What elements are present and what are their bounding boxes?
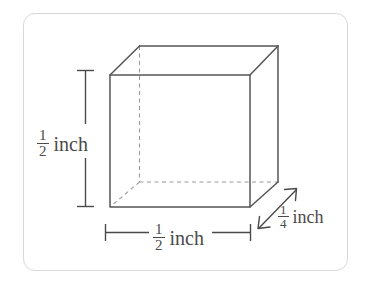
width-label: 1 2 inch [153,222,204,254]
width-numerator: 1 [153,222,165,238]
hidden-edges [110,46,278,207]
depth-unit: inch [293,208,324,226]
width-denominator: 2 [153,238,165,253]
solid-edges [110,46,278,207]
height-denominator: 2 [37,144,49,159]
edge-bottom-right-diagonal [250,182,278,207]
height-fraction: 1 2 [37,128,49,160]
height-label: 1 2 inch [37,128,88,160]
depth-fraction: 1 4 [278,203,289,231]
edge-top-left-diagonal [110,46,140,75]
height-unit: inch [54,134,88,154]
hidden-edge-back-bottom-left-diagonal [110,182,140,207]
depth-arrowhead-upper-right [285,189,297,201]
height-numerator: 1 [37,128,49,144]
front-face [110,75,250,207]
width-fraction: 1 2 [153,222,165,254]
depth-denominator: 4 [278,217,289,230]
depth-label: 1 4 inch [278,203,324,231]
edge-top-right-diagonal [250,46,278,75]
depth-numerator: 1 [278,203,289,217]
figure-page: 1 2 inch 1 2 inch 1 4 inch [0,0,371,284]
width-unit: inch [170,228,204,248]
